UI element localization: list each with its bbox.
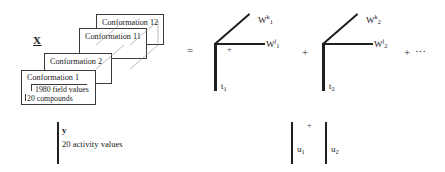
conformation-slab-12-title: Conformation 12: [102, 18, 158, 27]
diagram-canvas: X Conformation 12 Conformation 11 Confor…: [0, 0, 445, 172]
plus-operator-term1-term2: +: [302, 47, 308, 58]
equals-operator: =: [187, 45, 193, 56]
w1-k-label: Wk1: [258, 14, 273, 25]
u1-vector-bar: [291, 122, 293, 164]
conformation-slab-11-title: Conformation 11: [85, 32, 141, 41]
u1-label: u1: [297, 145, 305, 155]
conformation-slab-2-title: Conformation 2: [50, 57, 102, 66]
t1-score-bar: [214, 43, 217, 91]
w1-k-loading-bar: [214, 13, 250, 45]
t2-score-bar: [322, 43, 325, 91]
y-vector-description: 20 activity values: [62, 140, 123, 149]
w2-j-label: Wj2: [374, 38, 387, 49]
w1-j-label: Wj1: [266, 38, 279, 49]
compounds-label: 20 compounds: [27, 94, 73, 103]
w1-j-loading-bar: [215, 43, 265, 45]
w2-k-label: Wk2: [366, 14, 381, 25]
field-values-axis-tick: [31, 84, 32, 91]
t1-label: t1: [221, 82, 227, 92]
compounds-axis-tick: [25, 94, 26, 101]
w2-k-loading-bar: [322, 13, 358, 45]
conformation-slab-1: Conformation 1 1980 field values 20 comp…: [21, 70, 96, 105]
rank-one-term-1: + Wj1 Wk1 t1: [210, 12, 296, 98]
conformation-slab-1-title: Conformation 1: [27, 73, 79, 82]
rank-one-term-2: Wj2 Wk2 t2: [318, 12, 404, 98]
field-values-label: 1980 field values: [35, 85, 89, 94]
term-1-junction-plus: +: [227, 46, 232, 54]
tensor-x-label: X: [33, 34, 41, 46]
y-vector-bar: [57, 122, 59, 164]
u2-label: u2: [331, 145, 339, 155]
continuation-operator: + ⋯: [404, 47, 427, 58]
y-vector-label: y: [62, 126, 67, 135]
t2-label: t2: [329, 82, 335, 92]
plus-operator-u1-u2: +: [307, 122, 312, 130]
u2-vector-bar: [325, 122, 327, 164]
w2-j-loading-bar: [323, 43, 373, 45]
